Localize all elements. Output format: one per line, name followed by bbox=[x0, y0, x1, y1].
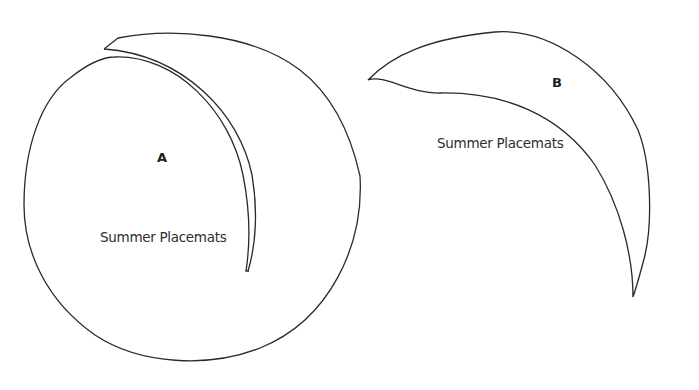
piece-a-caption: Summer Placemats bbox=[100, 229, 227, 245]
pattern-piece-b-outline bbox=[368, 32, 650, 297]
piece-b-letter: B bbox=[552, 75, 562, 90]
piece-b-caption: Summer Placemats bbox=[437, 135, 564, 151]
pattern-sheet: A Summer Placemats B Summer Placemats bbox=[0, 0, 699, 390]
pattern-piece-a bbox=[24, 33, 360, 360]
pattern-piece-b bbox=[368, 32, 650, 297]
piece-a-letter: A bbox=[157, 150, 167, 165]
